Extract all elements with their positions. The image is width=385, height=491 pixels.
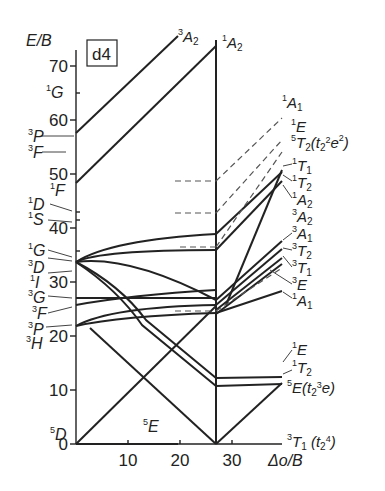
svg-text:1T2: 1T2 [292, 358, 312, 378]
svg-text:3H: 3H [26, 334, 43, 352]
svg-text:1G: 1G [46, 83, 63, 101]
svg-text:1A1: 1A1 [292, 291, 313, 311]
svg-text:1G: 1G [28, 241, 45, 259]
svg-text:20: 20 [49, 327, 68, 346]
svg-text:1S: 1S [28, 210, 44, 228]
svg-text:1F: 1F [50, 181, 66, 199]
svg-text:40: 40 [49, 219, 68, 238]
x-axis-label: Δo/B [267, 452, 303, 469]
diagram-canvas: d4 E/B 0 10 20 30 40 50 60 70 10 20 30 Δ… [0, 0, 385, 491]
title-text: d4 [92, 45, 111, 64]
svg-text:30: 30 [49, 273, 68, 292]
svg-text:5E(t23e): 5E(t23e) [287, 378, 335, 398]
svg-text:3F: 3F [32, 304, 48, 322]
region-label-5E: 5E [143, 417, 159, 435]
svg-text:20: 20 [171, 451, 190, 470]
svg-text:5T2(t22e2): 5T2(t22e2) [291, 133, 349, 153]
svg-text:30: 30 [223, 451, 242, 470]
svg-text:3F: 3F [28, 143, 44, 161]
svg-text:3A2: 3A2 [178, 27, 199, 47]
svg-text:10: 10 [49, 381, 68, 400]
svg-text:60: 60 [49, 111, 68, 130]
svg-text:70: 70 [49, 57, 68, 76]
svg-text:1E: 1E [292, 340, 308, 358]
tanabe-sugano-diagram: d4 E/B 0 10 20 30 40 50 60 70 10 20 30 Δ… [0, 0, 385, 491]
svg-text:1A1: 1A1 [282, 93, 303, 113]
svg-text:3T1 (t24): 3T1 (t24) [287, 432, 336, 452]
svg-text:10: 10 [119, 451, 138, 470]
svg-text:5D: 5D [50, 425, 67, 443]
y-axis-label: E/B [26, 32, 52, 49]
svg-text:1A2: 1A2 [222, 33, 243, 53]
